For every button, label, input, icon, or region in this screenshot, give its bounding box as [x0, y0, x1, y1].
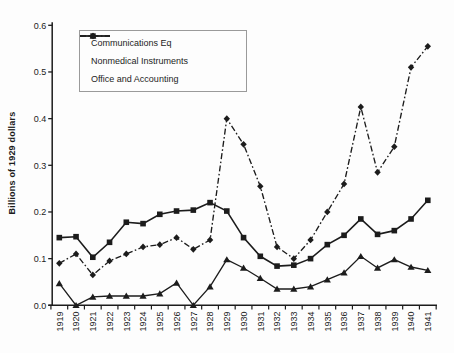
data-point-diamond [157, 241, 163, 248]
series-office-and-accounting [57, 198, 431, 269]
data-point-diamond [307, 237, 313, 244]
data-point-square [241, 235, 247, 241]
data-point-square [375, 232, 381, 238]
y-tick-label: 0.5 [34, 67, 47, 77]
legend-entry-communications: Communications Eq [91, 37, 246, 49]
x-tick-label: 1941 [423, 312, 433, 332]
data-point-diamond [190, 246, 196, 253]
data-point-diamond [341, 181, 347, 188]
x-tick-label: 1937 [356, 312, 366, 332]
x-tick-label: 1925 [155, 312, 165, 332]
x-tick-label: 1938 [373, 312, 383, 332]
data-point-triangle [173, 280, 180, 286]
data-point-square [124, 219, 130, 225]
legend: Communications Eq Nonmedical Instruments… [79, 30, 247, 92]
data-point-square [191, 207, 197, 213]
legend-entry-office: Office and Accounting [91, 73, 246, 85]
data-point-square [325, 242, 331, 248]
x-tick-label: 1923 [122, 312, 132, 332]
x-tick-label: 1940 [406, 312, 416, 332]
data-point-diamond [140, 244, 146, 251]
x-tick-label: 1922 [105, 312, 115, 332]
x-tick-label: 1920 [71, 312, 81, 332]
x-tick-label: 1935 [323, 312, 333, 332]
data-point-square [90, 254, 96, 260]
x-tick-label: 1927 [189, 312, 199, 332]
legend-label: Nonmedical Instruments [91, 56, 188, 66]
data-point-square [408, 216, 414, 222]
x-tick-label: 1933 [289, 312, 299, 332]
y-tick-label: 0.3 [34, 161, 47, 171]
x-tick-label: 1930 [239, 312, 249, 332]
legend-line-sample-square-icon [80, 31, 110, 41]
y-tick-label: 0.4 [34, 114, 47, 124]
x-tick-label: 1936 [339, 312, 349, 332]
data-point-diamond [408, 64, 414, 71]
data-point-square [207, 200, 213, 206]
data-point-square [258, 254, 264, 260]
data-point-square [157, 212, 163, 218]
data-point-triangle [324, 276, 331, 282]
data-point-triangle [56, 280, 63, 286]
data-point-square [341, 233, 347, 239]
data-point-square [107, 240, 113, 246]
data-point-diamond [240, 141, 246, 148]
data-point-diamond [173, 234, 179, 241]
data-point-square [274, 263, 280, 269]
x-tick-label: 1921 [88, 312, 98, 332]
x-tick-label: 1929 [222, 312, 232, 332]
data-point-diamond [56, 260, 62, 267]
chart-figure: 0.00.10.20.30.40.50.61919192019211922192… [0, 0, 454, 353]
x-tick-label: 1931 [256, 312, 266, 332]
data-point-square [308, 256, 314, 262]
data-point-square [392, 228, 398, 234]
data-point-square [140, 221, 146, 227]
data-point-square [291, 262, 297, 268]
data-point-diamond [257, 183, 263, 190]
legend-label: Office and Accounting [91, 74, 178, 84]
data-point-square [73, 234, 79, 240]
data-point-diamond [324, 209, 330, 216]
x-tick-label: 1928 [205, 312, 215, 332]
data-point-square [174, 208, 180, 214]
data-point-triangle [240, 265, 247, 271]
y-tick-label: 0.6 [34, 21, 47, 31]
data-point-square [425, 198, 431, 204]
series-line [59, 256, 428, 305]
x-tick-label: 1934 [306, 312, 316, 332]
data-point-triangle [206, 283, 213, 289]
data-point-triangle [407, 264, 414, 270]
x-tick-label: 1924 [138, 312, 148, 332]
data-point-square [358, 216, 364, 222]
data-point-square [224, 208, 230, 214]
data-point-diamond [123, 251, 129, 258]
data-point-square [57, 235, 63, 241]
data-point-triangle [391, 256, 398, 262]
data-point-diamond [224, 115, 230, 122]
data-point-triangle [357, 253, 364, 259]
data-point-triangle [223, 256, 230, 262]
x-tick-label: 1926 [172, 312, 182, 332]
y-tick-label: 0.1 [34, 254, 47, 264]
series-line [59, 200, 428, 266]
square-marker-icon [90, 33, 95, 38]
x-tick-label: 1932 [272, 312, 282, 332]
y-tick-label: 0.2 [34, 207, 47, 217]
x-tick-label: 1939 [390, 312, 400, 332]
y-tick-label: 0.0 [34, 301, 47, 311]
data-point-triangle [257, 275, 264, 281]
data-point-diamond [73, 251, 79, 258]
legend-entry-nonmedical: Nonmedical Instruments [91, 55, 246, 67]
x-tick-label: 1919 [55, 312, 65, 332]
y-axis-title: Billions of 1929 dollars [7, 97, 17, 229]
data-point-diamond [207, 237, 213, 244]
data-point-diamond [358, 104, 364, 111]
